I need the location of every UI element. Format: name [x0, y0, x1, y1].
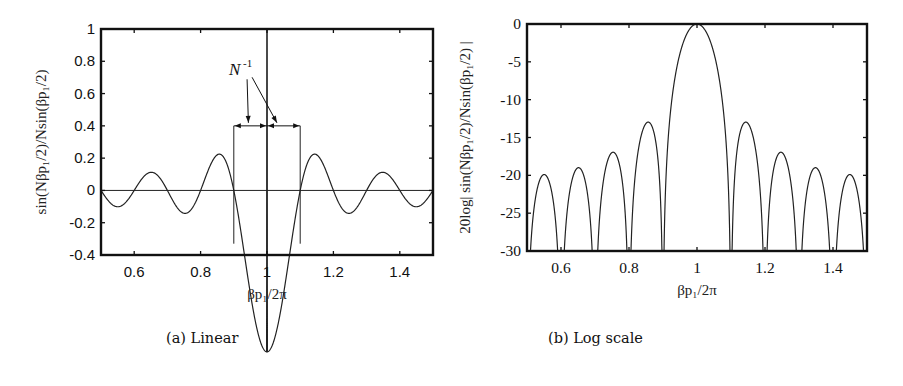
caption-log-scale: (b) Log scale [548, 330, 643, 346]
log-x-axis-label: βp₁/2π [677, 282, 717, 298]
x-tick-label: 0.6 [551, 259, 571, 276]
x-tick-label: 1.2 [755, 259, 774, 276]
caption-linear: (a) Linear [166, 330, 238, 346]
x-tick-label: 1.4 [823, 259, 843, 276]
y-tick-label: -10 [500, 91, 521, 108]
n-inverse-annotation: N-1 [228, 57, 300, 128]
y-tick-label: -5 [508, 53, 521, 70]
y-tick-label: -15 [500, 129, 521, 146]
log-plot-area [527, 24, 867, 251]
y-tick-label: -0.4 [69, 246, 95, 263]
n-inverse-label: N [228, 60, 242, 79]
log-y-axis-label: 20log| sin(Nβp₁/2)/Nsin(βp₁/2) | [457, 41, 474, 234]
linear-chart: 0.60.811.21.4-0.4-0.200.20.40.60.81 N-1 … [33, 20, 433, 352]
y-tick-label: 0.6 [74, 85, 95, 102]
linear-y-axis-label: sin(Nβp₁/2)/Nsin(βp₁/2) [33, 70, 50, 215]
figure: 0.60.811.21.4-0.4-0.200.20.40.60.81 N-1 … [0, 0, 903, 386]
y-tick-label: -20 [500, 166, 521, 183]
x-tick-label: 0.6 [124, 263, 145, 280]
y-tick-label: -0.2 [69, 214, 95, 231]
y-tick-label: -25 [500, 204, 521, 221]
y-tick-label: 1 [87, 20, 95, 37]
y-tick-label: -30 [500, 242, 521, 259]
svg-text:-1: -1 [243, 57, 252, 69]
log-chart: 0.60.811.21.4-30-25-20-15-10-50 20log| s… [457, 15, 867, 298]
x-tick-label: 1 [693, 259, 701, 276]
y-tick-label: 0 [87, 181, 95, 198]
x-tick-label: 0.8 [619, 259, 639, 276]
x-tick-label: 1.2 [323, 263, 344, 280]
x-tick-label: 1 [263, 263, 271, 280]
log-axes-frame [527, 24, 867, 251]
y-tick-label: 0.4 [74, 117, 95, 134]
x-tick-label: 1.4 [389, 263, 410, 280]
log-axis-ticks: 0.60.811.21.4-30-25-20-15-10-50 [500, 15, 867, 276]
linear-plot-area [101, 29, 433, 352]
linear-x-axis-label: βp₁/2π [247, 286, 287, 302]
y-tick-label: 0 [513, 15, 521, 32]
x-tick-label: 0.8 [190, 263, 211, 280]
y-tick-label: 0.2 [74, 149, 95, 166]
y-tick-label: 0.8 [74, 52, 95, 69]
